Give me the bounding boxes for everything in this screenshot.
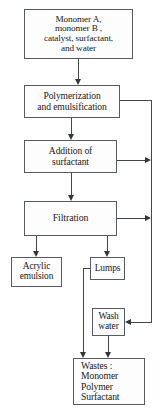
node-wash-line-2: water xyxy=(98,322,118,332)
edge-filtration-to-lumps-line xyxy=(107,236,108,251)
edge-lumps-to-wastes-vertical xyxy=(83,268,84,352)
edge-addition-to-filtration-line xyxy=(71,173,72,195)
node-wastes[interactable]: Wastes : Monomer Polymer Surfactant xyxy=(73,358,145,405)
edge-riser-to-wash-arrow xyxy=(125,319,131,325)
node-wastes-line-4: Surfactant xyxy=(81,392,119,402)
node-acrylic-line-2: emulsion xyxy=(20,272,54,282)
edge-addition-to-riser-line xyxy=(117,160,146,161)
node-filtration[interactable]: Filtration xyxy=(24,201,117,236)
edge-filtration-to-riser-line xyxy=(117,218,146,219)
edge-filtration-to-riser-arrow xyxy=(145,215,151,221)
edge-filtration-to-acrylic-line xyxy=(36,236,37,251)
flowchart-canvas: Monomer A, monomer B , catalyst, surfact… xyxy=(0,0,159,411)
node-wastes-line-2: Monomer xyxy=(81,371,118,381)
node-raw-materials-line-4: and water xyxy=(61,44,96,54)
right-riser-vertical-line xyxy=(151,100,152,322)
edge-lumps-to-wastes-horizontal xyxy=(83,268,90,269)
node-addition-line-2: surfactant xyxy=(52,157,89,167)
node-lumps[interactable]: Lumps xyxy=(90,257,125,280)
node-raw-materials[interactable]: Monomer A, monomer B , catalyst, surfact… xyxy=(24,9,133,59)
edge-feed-to-polymerization-line xyxy=(78,59,79,79)
node-filtration-line-1: Filtration xyxy=(53,213,88,223)
edge-polymerization-to-addition-line xyxy=(71,118,72,134)
node-polymerization-line-2: and emulsification xyxy=(37,102,106,112)
edge-riser-to-wash-line xyxy=(131,322,152,323)
node-polymerization-and-emulsification[interactable]: Polymerization and emulsification xyxy=(24,85,120,118)
node-polymerization-line-1: Polymerization xyxy=(43,91,100,101)
node-addition-of-surfactant[interactable]: Addition of surfactant xyxy=(24,140,117,173)
node-acrylic-emulsion[interactable]: Acrylic emulsion xyxy=(11,257,62,287)
edge-polymerization-to-riser-line xyxy=(120,100,152,101)
node-addition-line-1: Addition of xyxy=(49,146,92,156)
node-lumps-line-1: Lumps xyxy=(95,264,121,274)
edge-addition-to-riser-arrow xyxy=(145,157,151,163)
node-wash-water[interactable]: Wash water xyxy=(92,308,125,336)
edge-wash-to-wastes-line xyxy=(108,336,109,352)
